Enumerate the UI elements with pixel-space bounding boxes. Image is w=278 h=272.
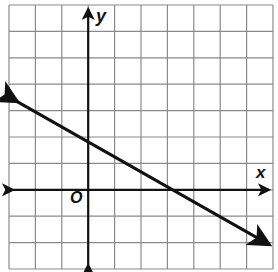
grid-lines	[9, 5, 273, 269]
x-axis-label: x	[255, 163, 267, 182]
y-axis-label: y	[95, 6, 107, 26]
origin-label: O	[70, 189, 83, 206]
coordinate-graph: x y O	[0, 0, 278, 272]
